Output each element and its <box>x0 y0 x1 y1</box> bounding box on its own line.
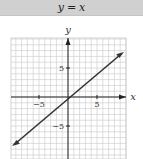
x-axis-label: x <box>130 91 136 102</box>
tick-label-x-pos5: 5 <box>94 100 99 109</box>
plot-area: −5 5 5 −5 y x <box>0 0 143 159</box>
tick-label-y-pos5: 5 <box>59 64 64 73</box>
tick-label-x-neg5: −5 <box>33 100 45 109</box>
tick-label-y-neg5: −5 <box>52 122 64 131</box>
y-axis-label: y <box>64 24 71 35</box>
x-axis-arrow-icon <box>119 95 126 100</box>
